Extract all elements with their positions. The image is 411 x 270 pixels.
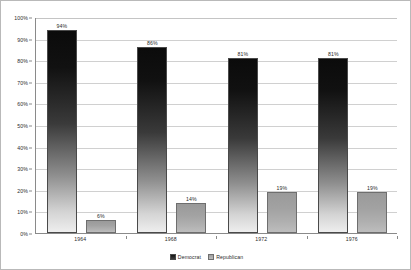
y-tick-label: 70% [17, 80, 28, 86]
legend-swatch-icon [170, 254, 176, 260]
x-tick-mark [397, 236, 398, 239]
y-tick-mark [29, 169, 32, 170]
y-tick-mark [29, 234, 32, 235]
y-tick-label: 10% [17, 209, 28, 215]
bar-republican-1964 [86, 220, 116, 233]
gridline [36, 40, 397, 41]
bar-chart: 0%10%20%30%40%50%60%70%80%90%100% 94%6%8… [0, 0, 411, 270]
bar-democrat-1976 [318, 58, 348, 233]
bar-democrat-1972 [228, 58, 258, 233]
y-tick-label: 100% [14, 15, 28, 21]
legend-item-republican[interactable]: Republican [208, 254, 243, 260]
bar-value-label: 86% [147, 40, 158, 46]
chart-legend: DemocratRepublican [1, 254, 411, 260]
y-tick-label: 0% [20, 231, 28, 237]
x-tick-mark [126, 236, 127, 239]
legend-label: Democrat [178, 254, 201, 260]
bar-value-label: 19% [276, 185, 287, 191]
x-tick-label-1968: 1968 [165, 236, 177, 242]
bar-democrat-1964 [47, 30, 77, 233]
bar-republican-1976 [357, 192, 387, 233]
plot-area: 94%6%86%14%81%19%81%19% [35, 18, 397, 234]
x-tick-label-1976: 1976 [346, 236, 358, 242]
gridline [36, 18, 397, 19]
bar-value-label: 19% [367, 185, 378, 191]
x-tick-label-1972: 1972 [255, 236, 267, 242]
legend-label: Republican [216, 254, 243, 260]
bar-value-label: 6% [97, 213, 105, 219]
y-tick-mark [29, 82, 32, 83]
y-axis: 0%10%20%30%40%50%60%70%80%90%100% [1, 18, 32, 234]
y-tick-label: 80% [17, 58, 28, 64]
y-tick-label: 40% [17, 145, 28, 151]
y-tick-label: 60% [17, 101, 28, 107]
x-tick-mark [216, 236, 217, 239]
y-tick-mark [29, 190, 32, 191]
y-tick-mark [29, 61, 32, 62]
x-tick-mark [307, 236, 308, 239]
y-tick-mark [29, 18, 32, 19]
y-tick-label: 30% [17, 166, 28, 172]
bar-republican-1968 [176, 203, 206, 233]
y-tick-label: 20% [17, 188, 28, 194]
y-tick-mark [29, 212, 32, 213]
bar-value-label: 14% [186, 196, 197, 202]
y-tick-mark [29, 147, 32, 148]
bar-democrat-1968 [137, 47, 167, 233]
y-tick-mark [29, 126, 32, 127]
bar-value-label: 81% [328, 51, 339, 57]
y-tick-mark [29, 39, 32, 40]
legend-swatch-icon [208, 254, 214, 260]
y-tick-label: 90% [17, 37, 28, 43]
x-tick-label-1964: 1964 [74, 236, 86, 242]
bar-value-label: 94% [56, 23, 67, 29]
bar-republican-1972 [267, 192, 297, 233]
x-axis: 1964196819721976 [35, 236, 397, 248]
y-tick-mark [29, 104, 32, 105]
bar-value-label: 81% [237, 51, 248, 57]
legend-item-democrat[interactable]: Democrat [170, 254, 201, 260]
y-tick-label: 50% [17, 123, 28, 129]
